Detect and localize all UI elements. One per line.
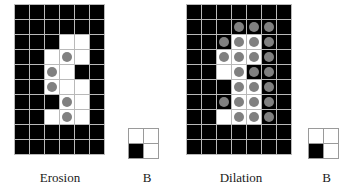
grid-cell — [90, 80, 104, 94]
grid-cell — [60, 80, 74, 94]
grid-cell — [277, 65, 291, 79]
grid-cell — [75, 65, 89, 79]
grid-cell — [187, 95, 201, 109]
grid-cell — [202, 95, 216, 109]
grid-cell — [15, 35, 29, 49]
gray-circle-marker-icon — [264, 82, 274, 92]
grid-cell — [15, 5, 29, 19]
gray-circle-marker-icon — [62, 97, 72, 107]
grid-cell — [144, 129, 158, 143]
grid-cell — [45, 35, 59, 49]
grid-cell — [217, 95, 231, 109]
grid-cell — [187, 140, 201, 154]
gray-circle-marker-icon — [264, 37, 274, 47]
grid-cell — [60, 95, 74, 109]
grid-cell — [187, 5, 201, 19]
grid-cell — [45, 65, 59, 79]
grid-cell — [60, 50, 74, 64]
grid-cell — [247, 140, 261, 154]
grid-cell — [15, 50, 29, 64]
grid-cell — [30, 65, 44, 79]
grid-cell — [144, 144, 158, 158]
grid-cell — [75, 95, 89, 109]
grid-cell — [232, 50, 246, 64]
gray-circle-marker-icon — [234, 52, 244, 62]
gray-circle-marker-icon — [249, 22, 259, 32]
grid-cell — [90, 110, 104, 124]
grid-cell — [90, 35, 104, 49]
grid-cell — [262, 95, 276, 109]
grid-cell — [247, 80, 261, 94]
grid-cell — [217, 5, 231, 19]
grid-cell — [129, 144, 143, 158]
grid-cell — [15, 95, 29, 109]
grid-cell — [15, 140, 29, 154]
grid-cell — [217, 125, 231, 139]
grid-cell — [45, 125, 59, 139]
grid-cell — [187, 80, 201, 94]
grid-cell — [202, 125, 216, 139]
grid-cell — [232, 110, 246, 124]
grid-cell — [15, 20, 29, 34]
grid-cell — [232, 5, 246, 19]
gray-circle-marker-icon — [62, 52, 72, 62]
gray-circle-marker-icon — [249, 52, 259, 62]
grid-cell — [60, 65, 74, 79]
grid-cell — [60, 5, 74, 19]
structuring-element-right-caption: B — [300, 170, 353, 186]
grid-cell — [202, 5, 216, 19]
grid-cell — [247, 50, 261, 64]
grid-cell — [45, 110, 59, 124]
grid-cell — [262, 35, 276, 49]
grid-cell — [75, 110, 89, 124]
grid-cell — [45, 5, 59, 19]
grid-cell — [187, 125, 201, 139]
grid-cell — [217, 65, 231, 79]
gray-circle-marker-icon — [219, 37, 229, 47]
gray-circle-marker-icon — [219, 97, 229, 107]
grid-cell — [60, 140, 74, 154]
grid-cell — [187, 65, 201, 79]
grid-cell — [277, 95, 291, 109]
gray-circle-marker-icon — [264, 22, 274, 32]
grid-cell — [262, 140, 276, 154]
dilation-grid — [186, 4, 292, 155]
gray-circle-marker-icon — [249, 82, 259, 92]
grid-cell — [90, 5, 104, 19]
grid-cell — [247, 20, 261, 34]
structuring-element-right-grid — [308, 128, 339, 159]
grid-cell — [75, 125, 89, 139]
gray-circle-marker-icon — [234, 67, 244, 77]
morphology-figure: Erosion B Dilation B — [0, 0, 353, 194]
grid-cell — [309, 144, 323, 158]
gray-circle-marker-icon — [234, 82, 244, 92]
grid-cell — [90, 95, 104, 109]
grid-cell — [262, 110, 276, 124]
grid-cell — [187, 35, 201, 49]
structuring-element-left-panel — [128, 128, 159, 159]
grid-cell — [30, 5, 44, 19]
grid-cell — [75, 80, 89, 94]
grid-cell — [217, 50, 231, 64]
grid-cell — [90, 65, 104, 79]
grid-cell — [247, 35, 261, 49]
gray-circle-marker-icon — [249, 37, 259, 47]
gray-circle-marker-icon — [249, 112, 259, 122]
gray-circle-marker-icon — [234, 37, 244, 47]
gray-circle-marker-icon — [249, 97, 259, 107]
grid-cell — [60, 110, 74, 124]
grid-cell — [60, 35, 74, 49]
grid-cell — [187, 20, 201, 34]
grid-cell — [202, 35, 216, 49]
grid-cell — [45, 20, 59, 34]
grid-cell — [60, 20, 74, 34]
grid-cell — [15, 65, 29, 79]
grid-cell — [15, 80, 29, 94]
grid-cell — [90, 125, 104, 139]
grid-cell — [75, 20, 89, 34]
grid-cell — [309, 129, 323, 143]
grid-cell — [277, 110, 291, 124]
grid-cell — [247, 110, 261, 124]
grid-cell — [277, 125, 291, 139]
grid-cell — [247, 5, 261, 19]
